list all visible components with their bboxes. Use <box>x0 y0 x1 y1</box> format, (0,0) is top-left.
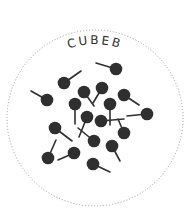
berry-icon <box>31 91 53 106</box>
berry-icon <box>42 140 56 164</box>
berry-icon <box>69 98 82 124</box>
berry-icon <box>118 119 131 139</box>
cubeb-illustration: CUBEB <box>0 0 190 217</box>
berries-group <box>31 63 153 172</box>
title-arc-text: CUBEB <box>66 33 125 51</box>
berry-icon <box>118 89 139 105</box>
berry-icon <box>49 122 72 141</box>
berry-icon <box>96 63 122 76</box>
berry-icon <box>58 147 80 160</box>
berry-icon <box>106 140 120 161</box>
berry-icon <box>78 128 100 147</box>
dotted-circle-frame <box>7 30 183 206</box>
berry-icon <box>87 158 110 172</box>
berry-icon <box>58 71 81 89</box>
berry-icon <box>127 108 153 121</box>
berry-icon <box>79 111 93 137</box>
